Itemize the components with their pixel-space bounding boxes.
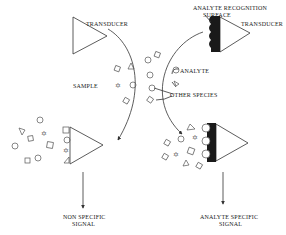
label-sample: SAMPLE — [73, 83, 98, 89]
label-non-specific-1: NON SPECIFIC — [63, 214, 106, 220]
transducer-left-bottom: ✡ — [63, 127, 103, 164]
right-free-particles: ✡ ✡ — [162, 124, 203, 169]
label-analyte-specific-1: ANALYTE SPECIFIC — [200, 214, 258, 220]
label-other-species: OTHER SPECIES — [170, 92, 217, 98]
label-transducer-right: TRANSDUCER — [241, 21, 283, 27]
left-flow-arrow — [108, 29, 135, 140]
left-free-particles: ✡ — [12, 117, 53, 163]
label-analyte-recognition: ANALYTE RECOGNITION — [193, 5, 267, 11]
svg-text:✡: ✡ — [63, 147, 69, 155]
svg-text:✡: ✡ — [192, 134, 198, 142]
label-analyte: ANALYTE — [180, 68, 209, 74]
transducer-right-bottom — [202, 123, 248, 162]
svg-text:✡: ✡ — [173, 151, 179, 159]
biosensor-diagram: TRANSDUCER ANALYTE RECOGNITION SURFACE T… — [0, 0, 286, 235]
label-non-specific-2: SIGNAL — [72, 221, 95, 227]
label-transducer-left: TRANSDUCER — [86, 21, 128, 27]
right-flow-arrow — [162, 32, 203, 134]
label-analyte-specific-2: SIGNAL — [219, 221, 242, 227]
svg-text:✡: ✡ — [115, 82, 121, 90]
svg-text:✡: ✡ — [41, 130, 47, 138]
